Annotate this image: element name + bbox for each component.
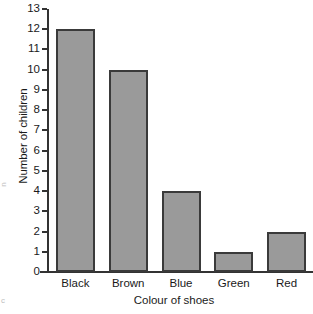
plot-area [49, 9, 313, 272]
bar [109, 70, 148, 272]
x-tick-label: Brown [102, 276, 155, 290]
bar [56, 29, 95, 272]
x-tick-label: Black [49, 276, 102, 290]
page-margin-artifact-left: n [0, 182, 8, 186]
bar-chart-figure: Number of children 012345678910111213 Bl… [0, 0, 313, 314]
bar [214, 252, 253, 272]
x-tick-label: Red [260, 276, 313, 290]
bar [267, 232, 306, 272]
page-margin-artifact-bottom: c [1, 296, 5, 305]
x-tick-label: Green [207, 276, 260, 290]
x-axis-tick-labels: BlackBrownBlueGreenRed [49, 276, 313, 294]
x-axis-label: Colour of shoes [49, 294, 299, 306]
bar [162, 191, 201, 272]
x-tick-label: Blue [155, 276, 208, 290]
